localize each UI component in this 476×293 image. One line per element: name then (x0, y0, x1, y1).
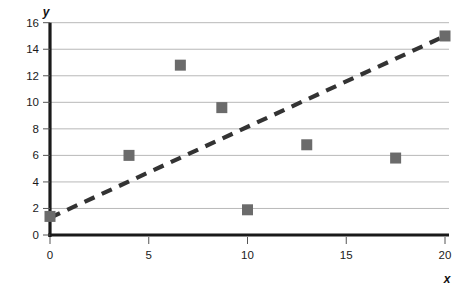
data-point-marker (216, 102, 227, 113)
y-tick-label-12: 12 (26, 70, 39, 82)
x-axis-title: x (443, 272, 452, 286)
data-point-marker (124, 150, 135, 161)
scatter-chart: 024681012141605101520 y x (0, 0, 476, 293)
y-tick-label-10: 10 (26, 96, 39, 108)
y-tick-label-8: 8 (33, 123, 39, 135)
y-tick-label-6: 6 (33, 149, 39, 161)
x-tick-label-20: 20 (439, 249, 452, 261)
y-tick-label-14: 14 (26, 43, 39, 55)
y-tick-label-16: 16 (26, 17, 39, 29)
y-axis-title: y (42, 5, 51, 19)
data-point-marker (440, 30, 451, 41)
x-tick-label-0: 0 (47, 249, 53, 261)
data-point-marker (390, 153, 401, 164)
y-tick-label-4: 4 (33, 176, 40, 188)
tick-labels-group: 024681012141605101520 (26, 17, 451, 261)
x-tick-label-15: 15 (340, 249, 353, 261)
trendline-group (50, 36, 445, 218)
x-tick-label-10: 10 (241, 249, 254, 261)
data-point-marker (45, 211, 56, 222)
y-tick-label-2: 2 (33, 202, 39, 214)
x-tick-label-5: 5 (146, 249, 152, 261)
chart-canvas: 024681012141605101520 y x (0, 0, 476, 293)
gridlines-group (50, 23, 449, 209)
trend-line (50, 36, 445, 218)
data-point-marker (242, 204, 253, 215)
data-point-marker (175, 60, 186, 71)
data-point-marker (301, 139, 312, 150)
y-tick-label-0: 0 (33, 229, 39, 241)
